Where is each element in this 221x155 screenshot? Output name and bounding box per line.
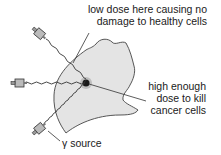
low-dose-label: low dose here causing no damage to healt…	[72, 3, 207, 27]
low-dose-line-1: low dose here causing no	[72, 3, 207, 15]
high-dose-line-2: dose to kill	[138, 92, 206, 104]
high-dose-line-1: high enough	[138, 80, 206, 92]
high-dose-label: high enough dose to kill cancer cells	[138, 80, 206, 116]
gamma-source-top-left	[31, 25, 48, 41]
high-dose-line-3: cancer cells	[138, 104, 206, 116]
source-pointer	[48, 131, 60, 141]
radiotherapy-diagram: low dose here causing no damage to healt…	[0, 0, 221, 155]
gamma-source-left	[11, 79, 27, 87]
low-dose-line-2: damage to healthy cells	[72, 15, 207, 27]
gamma-source-label: γ source	[62, 137, 102, 149]
gamma-source-bottom-left	[31, 120, 48, 136]
